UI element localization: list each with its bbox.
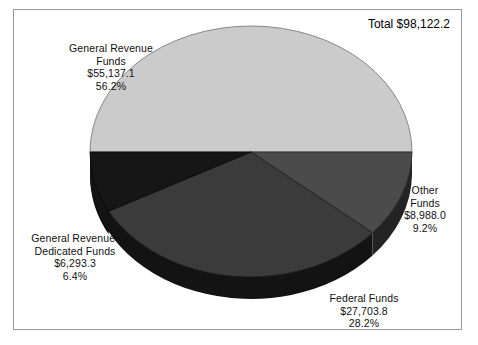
pie-chart-figure: Total $98,122.2 General Revenue Funds $5… xyxy=(0,0,478,345)
slice-label-gr-dedicated-funds: General Revenue- Dedicated Funds $6,293.… xyxy=(4,232,146,282)
slice-label-other-funds: Other Funds $8,988.0 9.2% xyxy=(382,184,468,234)
total-label: Total $98,122.2 xyxy=(368,17,450,31)
slice-label-general-revenue: General Revenue Funds $55,137.1 56.2% xyxy=(36,42,186,92)
slice-label-federal-funds: Federal Funds $27,703.8 28.2% xyxy=(298,292,430,330)
